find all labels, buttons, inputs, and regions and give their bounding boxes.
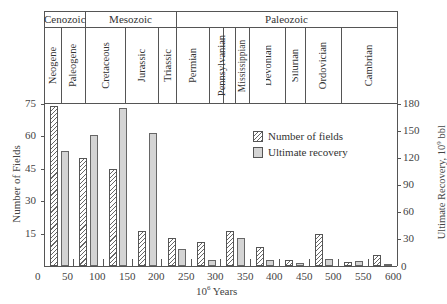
period-mississippian: Mississippian: [235, 28, 249, 103]
right-axis-title-base: Ultimate Recovery, 10: [436, 145, 447, 240]
bar-ultimate-recovery: [149, 133, 157, 266]
left-tick-label: 45: [25, 162, 36, 174]
x-tick-label: 400: [266, 270, 283, 282]
bar-ultimate-recovery: [266, 260, 274, 266]
right-tick: [397, 239, 401, 240]
left-tick: [41, 136, 45, 137]
x-tick: [73, 259, 74, 266]
bar-number-of-fields: [285, 260, 293, 266]
x-tick: [338, 259, 339, 266]
divider-mask: [288, 28, 292, 103]
x-tick-label: 0: [35, 270, 41, 282]
x-tick: [368, 259, 369, 266]
period-triassic: Triassic: [158, 28, 176, 103]
period-label: Triassic: [162, 49, 173, 82]
right-tick: [397, 104, 401, 105]
x-axis-title-unit: Years: [211, 285, 238, 297]
bar-ultimate-recovery: [296, 263, 304, 266]
left-tick: [41, 201, 45, 202]
period-devonian: Devonian: [249, 28, 285, 103]
bar-number-of-fields: [226, 231, 234, 266]
x-tick-label: 450: [296, 270, 313, 282]
period-label: Neogene: [47, 47, 58, 84]
bar-number-of-fields: [168, 238, 176, 266]
x-tick-label: 350: [237, 270, 254, 282]
era-mesozoic: Mesozoic: [85, 11, 176, 27]
era-paleozoic: Paleozoic: [176, 11, 397, 27]
left-axis-title: Number of Fields: [10, 134, 22, 234]
right-tick-label: 150: [403, 124, 420, 136]
bar-ultimate-recovery: [355, 261, 363, 266]
period-label: Jurassic: [136, 49, 147, 82]
right-axis-title-unit: bbl: [436, 125, 447, 141]
bar-number-of-fields: [79, 158, 87, 266]
legend-fields-label: Number of fields: [268, 130, 343, 142]
legend-recovery-label: Ultimate recovery: [268, 146, 348, 158]
x-axis-title: 106 Years: [196, 284, 237, 297]
x-tick-label: 100: [89, 270, 106, 282]
bar-number-of-fields: [315, 234, 323, 266]
divider-mask: [262, 28, 266, 103]
bar-number-of-fields: [344, 262, 352, 266]
period-ordovician: Ordovician: [305, 28, 341, 103]
right-tick: [397, 185, 401, 186]
bar-ultimate-recovery: [384, 264, 392, 266]
right-tick-label: 180: [403, 97, 420, 109]
bar-number-of-fields: [109, 169, 117, 266]
left-tick: [41, 104, 45, 105]
bar-ultimate-recovery: [325, 259, 333, 266]
x-tick: [103, 259, 104, 266]
left-tick-label: 30: [25, 194, 36, 206]
era-cenozoic: Cenozoic: [44, 11, 85, 27]
x-axis-title-base: 10: [196, 285, 207, 297]
period-divider: [341, 27, 342, 103]
period-cretaceous: Cretaceous: [85, 28, 125, 103]
x-tick: [279, 259, 280, 266]
right-axis-title-exponent: 9: [435, 141, 443, 145]
left-tick: [41, 169, 45, 170]
left-tick-label: 60: [25, 129, 36, 141]
right-tick: [397, 212, 401, 213]
right-tick-label: 120: [403, 151, 420, 163]
bar-number-of-fields: [50, 106, 58, 266]
left-tick: [41, 234, 45, 235]
bar-number-of-fields: [138, 231, 146, 266]
x-tick-label: 250: [178, 270, 195, 282]
header-right-border: [397, 11, 398, 266]
period-divider: [285, 27, 286, 103]
period-cambrian: Cambrian: [341, 28, 397, 103]
x-tick: [161, 259, 162, 266]
period-jurassic: Jurassic: [125, 28, 158, 103]
x-tick-label: 600: [385, 270, 402, 282]
x-tick: [309, 259, 310, 266]
bar-number-of-fields: [256, 247, 264, 266]
x-tick: [191, 259, 192, 266]
plot-top-border: [44, 103, 397, 104]
x-tick: [132, 259, 133, 266]
bar-ultimate-recovery: [90, 135, 98, 266]
x-tick-label: 500: [325, 270, 342, 282]
period-label: Pennsylvanian: [217, 35, 228, 96]
x-tick-label: 150: [119, 270, 136, 282]
period-label: Cambrian: [364, 45, 375, 86]
period-neogene: Neogene: [44, 28, 61, 103]
bar-ultimate-recovery: [237, 238, 245, 266]
right-tick-label: 90: [403, 178, 414, 190]
period-label: Paleogene: [68, 44, 79, 87]
legend-dotted-swatch: [253, 147, 263, 158]
legend-hatched-swatch: [253, 131, 263, 142]
bar-number-of-fields: [197, 242, 205, 266]
left-tick-label: 75: [25, 97, 36, 109]
x-tick-label: 550: [355, 270, 372, 282]
x-axis-line: [44, 266, 397, 267]
period-pennsylvanian: Pennsylvanian: [209, 28, 235, 103]
bar-number-of-fields: [373, 255, 381, 266]
right-axis-title: Ultimate Recovery, 109 bbl: [435, 107, 447, 257]
x-tick-label: 200: [148, 270, 165, 282]
divider-mask: [331, 28, 335, 103]
period-label: Ordovician: [318, 42, 329, 89]
right-tick-label: 60: [403, 205, 414, 217]
right-tick: [397, 158, 401, 159]
bar-ultimate-recovery: [61, 151, 69, 266]
left-tick-label: 15: [25, 227, 36, 239]
